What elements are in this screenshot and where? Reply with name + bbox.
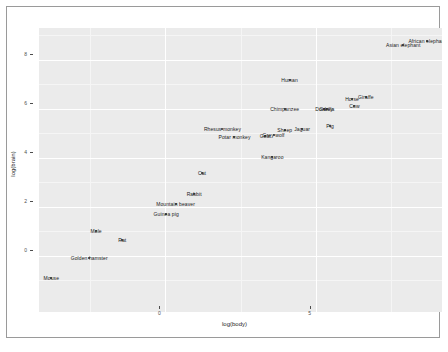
y-axis-tick-label: 6 <box>13 100 27 106</box>
point-label: Mountain beaver <box>156 201 195 207</box>
gridline-vertical-minor <box>241 28 242 312</box>
x-axis-tick <box>310 306 311 309</box>
gridline-vertical-minor <box>391 28 392 312</box>
y-axis-tick-label: 0 <box>13 247 27 253</box>
y-axis-title: log(brain) <box>10 134 16 194</box>
gridline-horizontal <box>39 109 442 110</box>
point-label: Gorilla <box>319 106 334 112</box>
y-axis-tick-label: 2 <box>13 198 27 204</box>
gridline-horizontal <box>39 207 442 208</box>
x-axis-title: log(body) <box>33 321 436 327</box>
point-label: Golden hamster <box>71 255 108 261</box>
y-axis-tick <box>30 54 33 55</box>
point-label: Jaguar <box>294 126 310 132</box>
point-label: Asian elephant <box>386 42 420 48</box>
gridline-horizontal <box>39 60 442 61</box>
image-frame: African elephantAsian elephantHumanGiraf… <box>6 6 440 338</box>
y-axis-tick-label: 8 <box>13 51 27 57</box>
point-label: Kangaroo <box>261 154 284 160</box>
point-label: Rat <box>118 237 126 243</box>
point-label: Human <box>281 77 298 83</box>
chart-page: African elephantAsian elephantHumanGiraf… <box>0 0 448 352</box>
y-axis-tick <box>30 152 33 153</box>
gridline-vertical <box>165 28 166 312</box>
point-label: Giraffe <box>358 94 374 100</box>
point-label: Chimpanzee <box>270 106 299 112</box>
y-axis-tick <box>30 103 33 104</box>
point-label: Rabbit <box>187 191 202 197</box>
y-axis-tick <box>30 201 33 202</box>
point-label: Rhesus monkey <box>204 126 241 132</box>
point-label: Guinea pig <box>154 211 179 217</box>
plot-panel: African elephantAsian elephantHumanGiraf… <box>39 28 442 312</box>
x-axis-tick-label: 0 <box>151 310 167 316</box>
point-label: Cow <box>349 103 359 109</box>
point-label: Goat <box>260 133 271 139</box>
point-label: Cat <box>198 170 206 176</box>
point-label: Mouse <box>44 275 60 281</box>
x-axis-tick <box>159 306 160 309</box>
gridline-vertical <box>316 28 317 312</box>
gridline-horizontal <box>39 158 442 159</box>
y-axis-tick <box>30 250 33 251</box>
point-label: Mole <box>91 228 102 234</box>
x-axis-tick-label: 5 <box>302 310 318 316</box>
point-label: Potar monkey <box>218 134 250 140</box>
point-label: Pig <box>326 123 334 129</box>
point-label: Horse <box>345 96 359 102</box>
gridline-vertical-minor <box>90 28 91 312</box>
